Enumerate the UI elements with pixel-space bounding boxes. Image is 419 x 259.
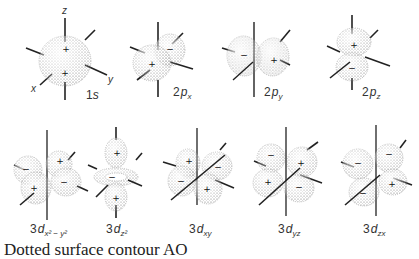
orbital-label-2py: 2 py xyxy=(264,85,282,101)
orbital-label-3dz2: 3 dz² xyxy=(106,222,127,238)
3dzx-sign-1: − xyxy=(354,158,362,168)
figure-caption: Dotted surface contour AO xyxy=(4,240,188,259)
2px-sign-front: + xyxy=(148,59,156,69)
2pz-axis-y-back xyxy=(370,30,378,38)
3dyz-sign-3: + xyxy=(264,177,272,187)
orbital-label-1s: 1s xyxy=(86,88,99,102)
orbital-label-2pz: 2 pz xyxy=(362,85,380,101)
3dz2-sign-bottom: + xyxy=(112,193,120,203)
2pz-sign-top: + xyxy=(350,40,358,50)
3dyz-sign-4: − xyxy=(295,182,303,192)
3dyz-sign-1: − xyxy=(267,150,275,160)
3dxy-sign-2: − xyxy=(177,176,185,186)
1s-axis-y-back xyxy=(85,30,95,40)
3dzx-sign-2: − xyxy=(385,149,393,159)
3dz2-sign-torus: − xyxy=(108,172,116,182)
2px-sign-back: − xyxy=(166,44,174,54)
3dx2y2-sign-left: − xyxy=(22,164,30,174)
3dxy-sign-1: + xyxy=(185,156,193,166)
3dz2-axis-y-back xyxy=(136,153,142,160)
2py-sign-right: + xyxy=(270,55,278,65)
3dz2-axis-x-back xyxy=(88,165,97,169)
orbital-label-3dxy: 3 dxy xyxy=(189,222,211,238)
3dzx-sign-4: − xyxy=(359,188,367,198)
3dx2y2-sign-front: + xyxy=(30,183,38,193)
3dx2y2-sign-back: + xyxy=(56,156,64,166)
2py-axis-y-back xyxy=(280,30,290,42)
3dxy-axis-y-back xyxy=(220,143,226,150)
2pz-axis-x-back xyxy=(327,46,340,52)
1s-sign-lower: + xyxy=(61,68,69,78)
orbital-label-3dzx: 3 dzx xyxy=(363,222,385,238)
2pz-sign-bottom: − xyxy=(348,63,356,73)
orbital-label-3dx2-y2: 3 dx² − y² xyxy=(30,222,67,238)
orbital-label-2px: 2 px xyxy=(173,85,191,101)
1s-sign-upper: + xyxy=(62,44,70,54)
2pz-axis-y-front xyxy=(365,57,390,66)
axis-label-z: z xyxy=(62,5,67,16)
3dz2-sign-top: + xyxy=(113,148,121,158)
3dyz-sign-2: + xyxy=(297,158,305,168)
3dxy-sign-4: + xyxy=(203,184,211,194)
3dzx-axis-y-back xyxy=(400,140,406,148)
2py-sign-left: − xyxy=(240,50,248,60)
axis-label-y: y xyxy=(108,74,113,85)
3dxy-axis-x-back xyxy=(163,162,176,166)
3dzx-sign-3: + xyxy=(388,179,396,189)
3dx2y2-sign-right: − xyxy=(60,177,68,187)
orbital-label-3dyz: 3 dyz xyxy=(278,222,300,238)
3dxy-sign-3: − xyxy=(214,162,222,172)
axis-label-x: x xyxy=(31,83,36,94)
